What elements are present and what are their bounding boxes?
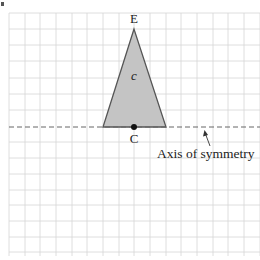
axis-of-symmetry-label: Axis of symmetry [157, 146, 255, 161]
arrow-head-icon [203, 130, 208, 137]
symmetry-diagram: E c C Axis of symmetry [0, 0, 260, 260]
arrow-line [206, 134, 211, 146]
base-point-label-c: C [130, 131, 139, 146]
interior-label-c: c [131, 68, 137, 83]
apex-label-e: E [130, 11, 138, 26]
point-c-dot [131, 124, 137, 130]
figure-marker [1, 2, 4, 6]
